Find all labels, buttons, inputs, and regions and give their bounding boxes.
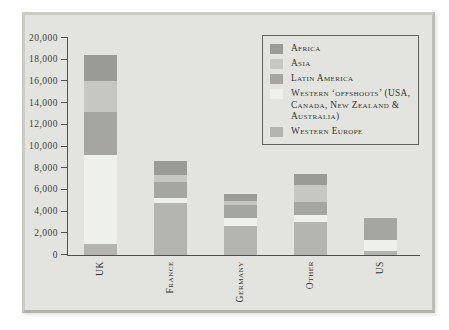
legend-swatch-asia — [270, 59, 283, 69]
y-tick — [61, 167, 68, 168]
bar-segment-asia-germany — [224, 201, 257, 205]
legend-swatch-western-europe — [270, 127, 283, 137]
y-tick-label: 6,000 — [34, 184, 58, 194]
legend-swatch-western-offshoots-usa-canada-n — [270, 89, 283, 99]
y-tick-label: 10,000 — [29, 141, 58, 151]
y-tick-label: 0 — [53, 250, 58, 260]
bar-segment-africa-other — [294, 174, 327, 185]
y-tick — [61, 254, 68, 255]
x-axis-label-other: Other — [305, 261, 316, 289]
legend-item-latin-america: Latin America — [270, 73, 412, 85]
bar-segment-western-europe-uk — [84, 244, 117, 255]
legend-label: Latin America — [291, 73, 354, 85]
bar-segment-western-europe-germany — [224, 226, 257, 255]
bar-segment-western-offshoots-usa-canada-new-zealand-australia-us — [364, 240, 397, 251]
y-tick — [61, 37, 68, 38]
x-axis-label-germany: Germany — [235, 261, 246, 302]
legend-item-western-europe: Western Europe — [270, 126, 412, 138]
bar-segment-latin-america-uk — [84, 112, 117, 155]
bar-segment-western-europe-other — [294, 222, 327, 255]
bar-segment-western-offshoots-usa-canada-new-zealand-australia-uk — [84, 155, 117, 245]
y-tick-label: 8,000 — [34, 163, 58, 173]
x-axis-label-france: France — [165, 261, 176, 294]
y-tick-label: 4,000 — [34, 206, 58, 216]
y-tick — [61, 232, 68, 233]
y-tick — [61, 59, 68, 60]
x-axis-label-us: US — [375, 261, 386, 274]
y-tick-label: 20,000 — [29, 33, 58, 43]
y-tick — [61, 124, 68, 125]
y-tick — [61, 146, 68, 147]
bar-segment-asia-other — [294, 185, 327, 202]
y-tick-label: 14,000 — [29, 98, 58, 108]
y-tick-label: 16,000 — [29, 76, 58, 86]
legend-swatch-africa — [270, 44, 283, 54]
legend-item-western-offshoots-usa-canada-n: Western ‘offshoots’ (USA, Canada, New Ze… — [270, 88, 412, 123]
legend: AfricaAsiaLatin AmericaWestern ‘offshoot… — [262, 35, 419, 145]
legend-label: Africa — [291, 43, 321, 55]
bar-segment-latin-america-france — [154, 182, 187, 197]
legend-label: Western Europe — [291, 126, 363, 138]
bar-segment-latin-america-other — [294, 202, 327, 216]
y-tick-label: 12,000 — [29, 119, 58, 129]
y-tick — [61, 102, 68, 103]
x-axis-label-uk: UK — [95, 261, 106, 276]
y-tick — [61, 80, 68, 81]
legend-label: Asia — [291, 58, 311, 70]
bar-segment-africa-france — [154, 161, 187, 175]
y-tick — [61, 189, 68, 190]
bar-segment-latin-america-germany — [224, 205, 257, 218]
chart-panel: 02,0004,0006,0008,00010,00012,00014,0001… — [22, 12, 435, 313]
bar-segment-western-offshoots-usa-canada-new-zealand-australia-germany — [224, 218, 257, 226]
bar-segment-asia-uk — [84, 81, 117, 111]
bar-segment-asia-france — [154, 175, 187, 183]
y-tick — [61, 211, 68, 212]
bar-segment-western-offshoots-usa-canada-new-zealand-australia-other — [294, 215, 327, 222]
legend-item-africa: Africa — [270, 43, 412, 55]
bar-segment-western-europe-us — [364, 251, 397, 255]
bar-segment-africa-uk — [84, 55, 117, 81]
legend-swatch-latin-america — [270, 74, 283, 84]
bar-segment-western-europe-france — [154, 203, 187, 255]
bar-segment-africa-germany — [224, 194, 257, 201]
y-tick-label: 2,000 — [34, 228, 58, 238]
legend-label: Western ‘offshoots’ (USA, Canada, New Ze… — [291, 88, 412, 123]
y-tick-label: 18,000 — [29, 54, 58, 64]
legend-item-asia: Asia — [270, 58, 412, 70]
bar-segment-western-offshoots-usa-canada-new-zealand-australia-france — [154, 198, 187, 203]
bar-segment-latin-america-us — [364, 218, 397, 240]
